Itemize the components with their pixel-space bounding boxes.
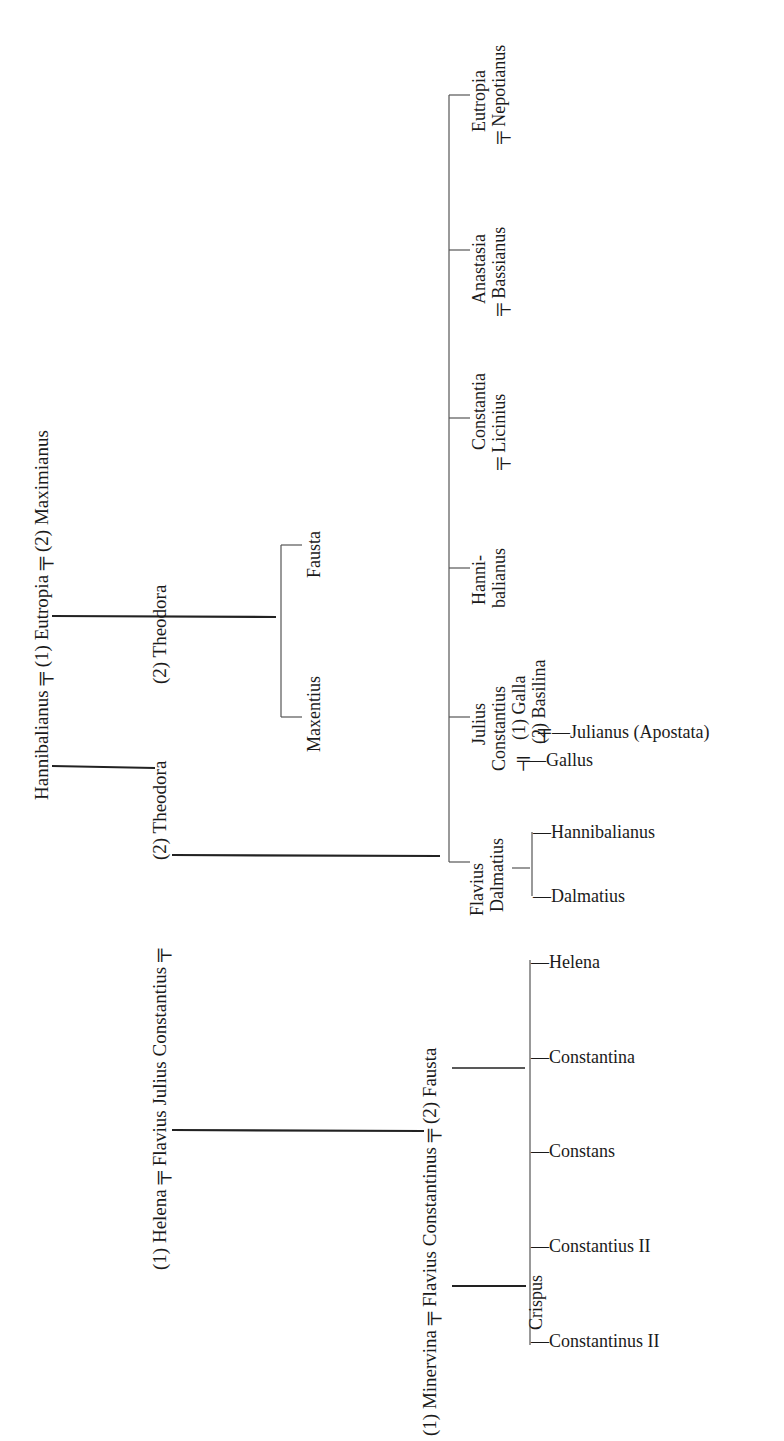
person-hannibalianus-son: Hanni-	[470, 555, 488, 605]
person-eutropia-daughter: Eutropia	[470, 70, 488, 132]
person-gallus: —Gallus	[528, 751, 593, 769]
person-constans: —Constans	[531, 1142, 615, 1160]
marriage-symbol: ╤	[489, 457, 509, 470]
person-flavius-julius-constantius: (1) Helena ╤ Flavius Julius Constantius …	[150, 949, 169, 1270]
spouse-galla: (1) Galla	[510, 676, 528, 740]
person-hannibalianus: Hannibalianus ╤ (1) Eutropia ╤ (2) Maxim…	[32, 430, 51, 800]
tree-connectors	[0, 0, 784, 1441]
marriage-symbol: ╤	[31, 557, 52, 570]
person-constantinus-ii: —Constantinus II	[531, 1332, 660, 1350]
person-julianus-apostata: —Julianus (Apostata)	[552, 723, 709, 741]
person-flavius-dalmatius: Flavius	[468, 863, 486, 916]
person-hannibalianus-grandson: —Hannibalianus	[533, 823, 655, 841]
marriage-symbol: ╤	[149, 1171, 170, 1184]
marriage-symbol: ╤	[31, 672, 52, 685]
marriage-symbol: ╤	[489, 303, 509, 316]
person-maxentius: Maxentius	[305, 676, 323, 752]
person-flavius-constantinus: (1) Minervina ╤ Flavius Constantinus ╤ (…	[420, 1048, 439, 1436]
person-constantina: —Constantina	[531, 1048, 635, 1066]
person-theodora: (2) Theodora	[150, 585, 169, 684]
person-helena-daughter: —Helena	[531, 953, 600, 971]
person-julius-constantius-2: Constantius	[490, 686, 508, 771]
person-theodora-2: (2) Theodora	[150, 761, 169, 860]
marriage-symbol: ╤	[419, 1129, 440, 1142]
spouse-licinius: ╤ Licinius	[490, 394, 508, 470]
marriage-symbol: ╤	[149, 949, 170, 962]
person-flavius-dalmatius-2: Dalmatius	[488, 838, 506, 912]
person-crispus: Crispus	[527, 1275, 545, 1330]
person-anastasia: Anastasia	[470, 234, 488, 304]
person-dalmatius-grandson: —Dalmatius	[533, 887, 625, 905]
marriage-symbol: ╤	[489, 131, 509, 144]
spouse-nepotianus: ╤ Nepotianus	[490, 45, 508, 144]
spouse-bassianus: ╤ Bassianus	[490, 227, 508, 316]
person-constantius-ii: —Constantius II	[531, 1237, 651, 1255]
person-constantia: Constantia	[470, 373, 488, 450]
person-julius-constantius: Julius	[470, 703, 488, 745]
person-fausta-daughter: Fausta	[305, 531, 323, 578]
marriage-symbol: ╤	[419, 1312, 440, 1325]
marriage-symbol-basilina: ╤	[538, 722, 551, 740]
person-hannibalianus-son-2: balianus	[490, 548, 508, 608]
